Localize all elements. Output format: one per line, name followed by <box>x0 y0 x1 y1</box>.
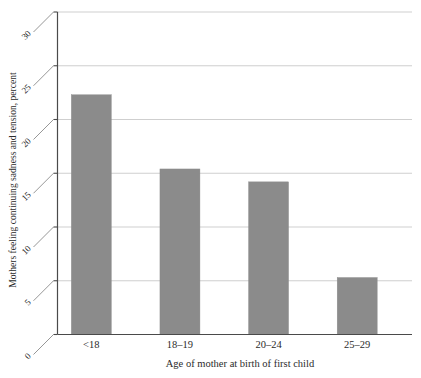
bar <box>249 182 289 335</box>
x-axis-tick-label: 20–24 <box>255 339 282 350</box>
bar-chart: 051015202530 <1818–1920–2425–29 Age of m… <box>0 0 421 378</box>
x-axis-tick-label: 18–19 <box>167 339 193 350</box>
bar <box>71 95 111 335</box>
x-axis-tick-label: <18 <box>83 339 99 350</box>
x-axis-title: Age of mother at birth of first child <box>166 358 315 369</box>
chart-canvas: 051015202530 <1818–1920–2425–29 Age of m… <box>0 0 421 378</box>
bar <box>337 278 377 335</box>
y-axis-title: Mothers feeling continuing sadness and t… <box>7 72 18 288</box>
x-axis-tick-label: 25–29 <box>344 339 370 350</box>
bar <box>160 169 200 335</box>
